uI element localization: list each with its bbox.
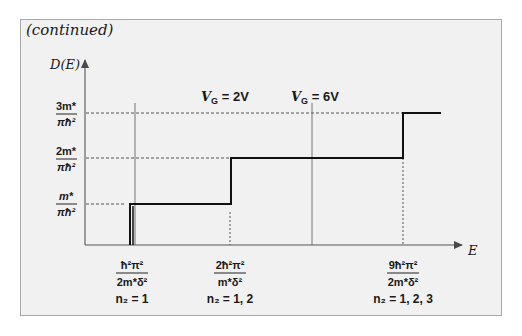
x-axis-label: E <box>467 243 478 258</box>
x-tick-3: 9ħ²π² 2m*δ² n₂ = 1, 2, 3 <box>373 259 433 306</box>
svg-text:ħ²π²: ħ²π² <box>121 259 144 271</box>
svg-text:2m*: 2m* <box>56 145 77 157</box>
y-tick-1: m* πħ² <box>56 190 77 218</box>
caption: (continued) <box>26 21 114 39</box>
svg-text:πħ²: πħ² <box>57 161 76 173</box>
svg-text:n₂ = 1, 2, 3: n₂ = 1, 2, 3 <box>373 292 433 306</box>
svg-text:2ħ²π²: 2ħ²π² <box>216 259 245 271</box>
y-tick-2: 2m* πħ² <box>56 145 77 173</box>
svg-text:3m*: 3m* <box>56 100 77 112</box>
x-tick-2: 2ħ²π² m*δ² n₂ = 1, 2 <box>207 259 254 306</box>
svg-text:n₂ = 1: n₂ = 1 <box>115 292 148 306</box>
svg-text:m*: m* <box>59 190 74 202</box>
svg-text:2m*δ²: 2m*δ² <box>117 276 148 288</box>
svg-text:2m*δ²: 2m*δ² <box>388 276 419 288</box>
svg-text:πħ²: πħ² <box>57 206 76 218</box>
vg-6v-label: VG = 6V <box>291 89 339 106</box>
x-tick-1: ħ²π² 2m*δ² n₂ = 1 <box>115 259 148 306</box>
vg-2v-label: VG = 2V <box>201 89 249 106</box>
dos-step-curve <box>130 113 441 245</box>
svg-text:9ħ²π²: 9ħ²π² <box>389 259 418 271</box>
svg-text:m*δ²: m*δ² <box>218 276 243 288</box>
svg-text:πħ²: πħ² <box>57 116 76 128</box>
y-tick-3: 3m* πħ² <box>56 100 77 128</box>
dos-diagram: (continued) D(E) E VG = 2V VG = 6V 3m* π… <box>0 0 522 336</box>
svg-text:n₂ = 1, 2: n₂ = 1, 2 <box>207 292 254 306</box>
y-axis-label: D(E) <box>49 57 80 72</box>
